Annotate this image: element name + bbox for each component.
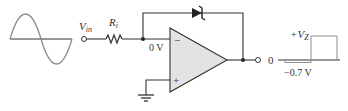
inverting-input-sign: − [174, 34, 180, 46]
circuit-diagram: Vin Ri 0 V − + 0 +VZ −0.7 V [0, 0, 348, 111]
output-terminal [256, 58, 261, 63]
output-zero-label: 0 [268, 54, 274, 66]
noninverting-input-sign: + [173, 74, 179, 86]
sine-input-waveform [10, 14, 72, 64]
virtual-ground-label: 0 V [149, 42, 164, 53]
resistor-label: Ri [108, 16, 118, 30]
output-square-waveform: 0 +VZ −0.7 V [268, 28, 340, 78]
ground-icon [138, 95, 154, 101]
input-label: Vin [79, 20, 92, 34]
input-terminal [82, 37, 87, 42]
output-low-label: −0.7 V [284, 67, 312, 78]
input-resistor [106, 35, 122, 43]
op-amp: − + [170, 28, 227, 92]
output-junction [241, 58, 245, 62]
output-high-label: +VZ [290, 28, 309, 42]
